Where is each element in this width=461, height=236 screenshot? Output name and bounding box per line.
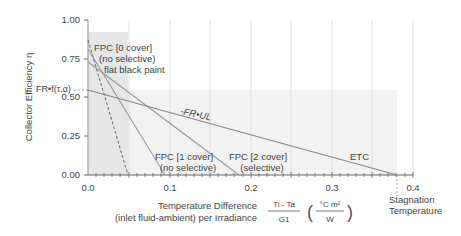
svg-text:Temperature Difference: Temperature Difference bbox=[158, 200, 257, 211]
intercept-label: FR•f(τ,α) bbox=[36, 84, 71, 94]
etc-label: ETC bbox=[350, 151, 369, 162]
x-axis-units: ( °C m² W ) bbox=[307, 200, 353, 224]
svg-text:Stagnation: Stagnation bbox=[389, 194, 434, 205]
svg-text:0.25: 0.25 bbox=[62, 130, 81, 141]
svg-text:(no selective): (no selective) bbox=[160, 162, 217, 173]
svg-text:(no selective): (no selective) bbox=[99, 53, 156, 64]
svg-text:1.00: 1.00 bbox=[62, 14, 81, 25]
svg-text:0.00: 0.00 bbox=[62, 169, 81, 180]
svg-text:(: ( bbox=[307, 202, 313, 222]
y-tick-labels: 1.00 0.75 0.50 0.25 0.00 bbox=[62, 14, 81, 180]
svg-text:): ) bbox=[347, 202, 353, 222]
svg-text:0.4: 0.4 bbox=[406, 182, 419, 193]
efficiency-chart: 1.00 0.75 0.50 0.25 0.00 0.0 0.1 0.2 0.3… bbox=[0, 0, 461, 236]
svg-text:0.1: 0.1 bbox=[163, 182, 176, 193]
fpc0-label: FPC [0 cover] (no selective) flat black … bbox=[94, 42, 165, 75]
x-axis-label: Temperature Difference (inlet fluid-ambi… bbox=[115, 200, 257, 223]
y-ticks bbox=[84, 20, 88, 175]
svg-text:W: W bbox=[326, 215, 334, 224]
svg-text:flat black paint: flat black paint bbox=[104, 64, 165, 75]
x-tick-labels: 0.0 0.1 0.2 0.3 0.4 bbox=[81, 182, 419, 193]
svg-text:Temperature: Temperature bbox=[389, 205, 442, 216]
svg-text:(selective): (selective) bbox=[240, 162, 283, 173]
svg-text:0.2: 0.2 bbox=[244, 182, 257, 193]
fpc1-label: FPC [1 cover] (no selective) bbox=[155, 151, 216, 173]
y-axis-label: Collector Efficiency η bbox=[23, 53, 34, 142]
svg-text:Ti - Ta: Ti - Ta bbox=[273, 200, 295, 209]
stagnation-label: Stagnation Temperature bbox=[389, 194, 442, 216]
x-axis-formula: Ti - Ta G1 bbox=[268, 200, 300, 224]
svg-text:(inlet fluid-ambient) per Irra: (inlet fluid-ambient) per Irradiance bbox=[115, 212, 257, 223]
svg-text:0.75: 0.75 bbox=[62, 53, 81, 64]
svg-text:0.3: 0.3 bbox=[325, 182, 338, 193]
svg-text:G1: G1 bbox=[279, 215, 290, 224]
svg-text:FPC [2 cover]: FPC [2 cover] bbox=[229, 151, 287, 162]
svg-text:°C m²: °C m² bbox=[320, 200, 341, 209]
svg-text:0.0: 0.0 bbox=[81, 182, 94, 193]
svg-text:FPC [1 cover]: FPC [1 cover] bbox=[155, 151, 213, 162]
svg-text:FPC [0 cover]: FPC [0 cover] bbox=[94, 42, 152, 53]
